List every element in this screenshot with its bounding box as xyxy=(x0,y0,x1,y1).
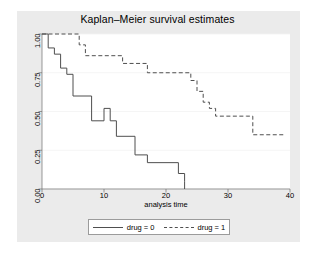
x-axis-label: analysis time xyxy=(42,200,290,209)
legend-key-solid-icon xyxy=(93,224,123,231)
y-tick-label: 0.25 xyxy=(34,150,43,165)
legend-key-dashed-icon xyxy=(164,224,194,231)
x-tick-label: 10 xyxy=(100,191,108,200)
legend-item-drug-0[interactable]: drug = 0 xyxy=(93,223,155,232)
y-tick-label: 0.50 xyxy=(34,111,43,126)
y-tick-label: 0.75 xyxy=(34,72,43,87)
legend-label-drug-1: drug = 1 xyxy=(198,223,226,232)
y-tick-label: 1.00 xyxy=(34,34,43,49)
legend[interactable]: drug = 0 drug = 1 xyxy=(88,219,230,235)
x-tick-label: 30 xyxy=(224,191,232,200)
x-tick-label: 20 xyxy=(162,191,170,200)
legend-item-drug-1[interactable]: drug = 1 xyxy=(164,223,226,232)
legend-label-drug-0: drug = 0 xyxy=(127,223,155,232)
chart-canvas xyxy=(0,0,315,253)
kaplan-meier-figure: Kaplan–Meier survival estimates 01020304… xyxy=(0,0,315,253)
x-tick-label: 40 xyxy=(286,191,294,200)
